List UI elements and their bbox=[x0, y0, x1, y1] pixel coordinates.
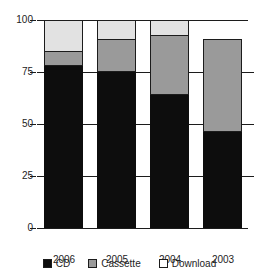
bar-segment-cd-2006 bbox=[44, 66, 83, 228]
legend-item-download[interactable]: Download bbox=[159, 258, 216, 269]
y-tick-right-25 bbox=[248, 176, 254, 177]
legend-label-cassette: Cassette bbox=[101, 258, 140, 269]
y-tick-75 bbox=[30, 72, 36, 73]
legend-item-cd[interactable]: CD bbox=[43, 258, 70, 269]
bar-2006[interactable] bbox=[44, 20, 83, 228]
chart-legend: CD Cassette Download bbox=[0, 258, 259, 269]
y-tick-25 bbox=[30, 176, 36, 177]
bar-2003[interactable] bbox=[203, 39, 242, 228]
legend-label-download: Download bbox=[172, 258, 216, 269]
bar-segment-cassette-2003 bbox=[203, 39, 242, 133]
y-tick-0 bbox=[30, 228, 36, 229]
y-tick-100 bbox=[30, 20, 36, 21]
bar-segment-cd-2005 bbox=[97, 72, 136, 228]
legend-swatch-download-icon bbox=[159, 259, 168, 268]
bar-segment-cd-2003 bbox=[203, 132, 242, 228]
y-axis-tick-label-75: 75 bbox=[0, 67, 33, 77]
bar-segment-download-2005 bbox=[97, 20, 136, 39]
bar-segment-download-2004 bbox=[150, 20, 189, 35]
y-tick-right-75 bbox=[248, 72, 254, 73]
y-axis-tick-label-100: 100 bbox=[0, 15, 33, 25]
bar-2005[interactable] bbox=[97, 20, 136, 228]
plot-area: 2006 2005 2004 2003 bbox=[37, 20, 248, 228]
y-axis-tick-label-0: 0 bbox=[0, 223, 33, 233]
legend-swatch-cd-icon bbox=[43, 259, 52, 268]
bar-segment-download-2006 bbox=[44, 20, 83, 51]
y-axis-tick-label-25: 25 bbox=[0, 171, 33, 181]
legend-swatch-cassette-icon bbox=[88, 259, 97, 268]
bar-segment-cassette-2005 bbox=[97, 39, 136, 72]
stacked-bar-chart: 100 75 50 25 0 bbox=[0, 0, 259, 278]
y-axis-tick-label-50: 50 bbox=[0, 119, 33, 129]
bar-2004[interactable] bbox=[150, 20, 189, 228]
y-tick-50 bbox=[30, 124, 36, 125]
y-tick-right-50 bbox=[248, 124, 254, 125]
gridline-0 bbox=[37, 228, 248, 229]
legend-label-cd: CD bbox=[56, 258, 70, 269]
bar-segment-cassette-2006 bbox=[44, 51, 83, 66]
legend-item-cassette[interactable]: Cassette bbox=[88, 258, 140, 269]
bar-segment-cd-2004 bbox=[150, 95, 189, 228]
bar-segment-cassette-2004 bbox=[150, 35, 189, 95]
